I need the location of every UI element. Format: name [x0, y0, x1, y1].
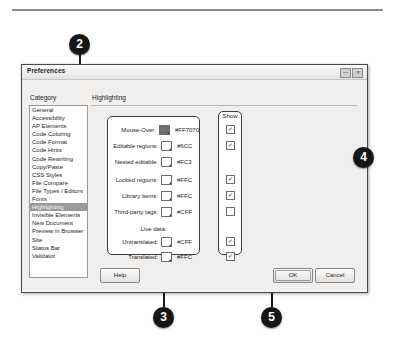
color-swatch-icon[interactable] — [161, 237, 172, 247]
cancel-button[interactable]: Cancel — [315, 268, 355, 283]
color-swatch-icon[interactable] — [161, 141, 172, 151]
dialog-titlebar[interactable]: Preferences — ✕ — [22, 65, 367, 80]
category-header: Category — [30, 94, 56, 101]
window-controls: — ✕ — [340, 68, 363, 78]
category-item[interactable]: Status Bar — [30, 244, 87, 252]
show-column-header: Show — [219, 113, 241, 119]
callout-marker-5: 5 — [261, 307, 282, 328]
preferences-dialog: Preferences — ✕ Category Highlighting Ge… — [21, 64, 368, 293]
category-item[interactable]: File Types / Editors — [30, 187, 87, 195]
category-item[interactable]: Site — [30, 236, 87, 244]
panel-header: Highlighting — [92, 94, 126, 101]
field-row-untranslated: Untranslated: #CFF — [108, 235, 199, 248]
category-item[interactable]: Validator — [30, 252, 87, 260]
field-row-editable-regions: Editable regions: #6CC — [108, 139, 199, 152]
color-swatch-icon[interactable] — [161, 252, 172, 262]
category-item[interactable]: Preview in Browser — [30, 227, 87, 235]
category-item[interactable]: New Document — [30, 219, 87, 227]
field-label: Nested editable: — [108, 159, 161, 165]
show-checkbox-translated[interactable]: ✓ — [226, 252, 235, 261]
show-checkbox-mouse-over[interactable]: ✓ — [226, 125, 235, 134]
show-column-group: Show ✓ ✓ ✓ ✓ ✓ ✓ — [218, 111, 242, 255]
category-item[interactable]: Invisible Elements — [30, 211, 87, 219]
show-checkbox-editable-regions[interactable]: ✓ — [226, 141, 235, 150]
page-top-rule — [12, 9, 383, 11]
color-swatch-icon[interactable] — [161, 157, 172, 167]
category-item[interactable]: Copy/Paste — [30, 163, 87, 171]
field-hex-value[interactable]: #FFC — [172, 254, 192, 260]
field-hex-value[interactable]: #CFF — [172, 239, 192, 245]
field-label: Library items: — [108, 193, 161, 199]
callout-marker-2: 2 — [69, 34, 90, 55]
category-item[interactable]: AP Elements — [30, 122, 87, 130]
field-row-locked-regions: Locked regions: #FFC — [108, 173, 199, 186]
category-item[interactable]: CSS Styles — [30, 171, 87, 179]
field-label: Locked regions: — [108, 177, 161, 183]
category-item[interactable]: Fonts — [30, 195, 87, 203]
color-swatch-icon[interactable] — [161, 191, 172, 201]
field-hex-value[interactable]: #FFC — [172, 193, 192, 199]
callout-marker-4: 4 — [353, 147, 374, 168]
show-checkbox-library-items[interactable]: ✓ — [226, 191, 235, 200]
category-list[interactable]: General Accessibility AP Elements Code C… — [29, 105, 88, 278]
color-swatch-icon[interactable] — [161, 207, 172, 217]
color-swatch-icon[interactable] — [159, 125, 170, 135]
callout-marker-3: 3 — [153, 307, 174, 328]
minimize-icon[interactable]: — — [340, 68, 351, 78]
help-button[interactable]: Help — [100, 268, 140, 283]
category-item[interactable]: File Compare — [30, 179, 87, 187]
show-checkbox-third-party-tags[interactable] — [226, 207, 235, 216]
field-hex-value[interactable]: #FF7070 — [170, 127, 199, 133]
field-hex-value[interactable]: #CFF — [172, 209, 192, 215]
highlighting-color-fields-group: Mouse-Over: #FF7070 Editable regions: #6… — [107, 116, 200, 255]
field-label: Untranslated: — [108, 239, 161, 245]
category-item[interactable]: Code Coloring — [30, 130, 87, 138]
dialog-title: Preferences — [27, 67, 65, 74]
dialog-body: Category Highlighting General Accessibil… — [22, 80, 367, 292]
panel-header-rule — [91, 105, 357, 106]
field-row-nested-editable: Nested editable: #FC3 — [108, 155, 199, 168]
live-data-label: Live data: — [108, 226, 199, 232]
field-row-mouse-over: Mouse-Over: #FF7070 — [108, 123, 199, 136]
color-swatch-icon[interactable] — [161, 175, 172, 185]
field-hex-value[interactable]: #FC3 — [172, 159, 192, 165]
show-checkbox-untranslated[interactable]: ✓ — [226, 237, 235, 246]
category-item[interactable]: Accessibility — [30, 114, 87, 122]
field-row-third-party-tags: Third-party tags: #CFF — [108, 205, 199, 218]
ok-button[interactable]: OK — [273, 268, 313, 283]
field-label: Third-party tags: — [108, 209, 161, 215]
close-icon[interactable]: ✕ — [352, 68, 363, 78]
field-label: Translated: — [108, 254, 161, 260]
field-hex-value[interactable]: #6CC — [172, 143, 192, 149]
category-item[interactable]: Code Rewriting — [30, 155, 87, 163]
field-row-library-items: Library items: #FFC — [108, 189, 199, 202]
category-item[interactable]: Code Hints — [30, 146, 87, 154]
category-item-highlighting[interactable]: Highlighting — [30, 203, 87, 211]
show-checkbox-locked-regions[interactable]: ✓ — [226, 175, 235, 184]
field-row-translated: Translated: #FFC — [108, 250, 199, 263]
category-item[interactable]: General — [30, 106, 87, 114]
category-item[interactable]: Code Format — [30, 138, 87, 146]
field-label: Mouse-Over: — [108, 127, 159, 133]
field-label: Editable regions: — [108, 143, 161, 149]
field-hex-value[interactable]: #FFC — [172, 177, 192, 183]
